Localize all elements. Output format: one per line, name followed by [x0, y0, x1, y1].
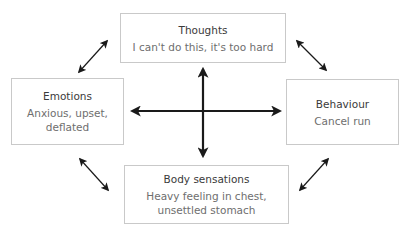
node-behaviour: Behaviour Cancel run: [286, 79, 399, 145]
node-description: Anxious, upset, deflated: [25, 106, 111, 134]
node-emotions: Emotions Anxious, upset, deflated: [11, 78, 124, 145]
arrow-thoughts-behaviour: [297, 41, 326, 70]
arrow-emotions-body: [80, 159, 108, 190]
arrow-behaviour-body: [300, 159, 328, 190]
node-title: Behaviour: [316, 97, 369, 111]
node-title: Emotions: [43, 89, 92, 103]
node-body-sensations: Body sensations Heavy feeling in chest, …: [124, 165, 289, 224]
node-thoughts: Thoughts I can't do this, it's too hard: [120, 13, 286, 63]
node-description: Cancel run: [314, 114, 371, 128]
node-title: Body sensations: [164, 172, 250, 186]
node-description: I can't do this, it's too hard: [133, 40, 274, 54]
arrow-thoughts-emotions: [79, 41, 107, 72]
node-description: Heavy feeling in chest, unsettled stomac…: [142, 189, 272, 217]
node-title: Thoughts: [178, 23, 227, 37]
